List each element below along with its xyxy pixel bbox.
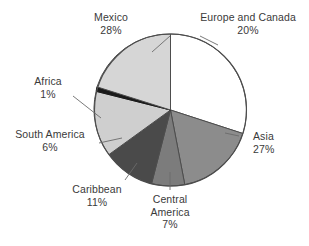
- slice-label-caribbean-name: Caribbean: [72, 183, 121, 195]
- slice-label-mexico-name: Mexico: [94, 11, 128, 23]
- slice-label-central-america-name: Central: [153, 193, 188, 205]
- slice-label-central-america: Central America 7%: [137, 193, 203, 231]
- slice-label-asia: Asia 27%: [253, 130, 303, 155]
- slice-label-africa-name: Africa: [34, 75, 61, 87]
- slice-label-caribbean: Caribbean 11%: [60, 183, 134, 208]
- slice-label-europe-and-canada-pct: 20%: [192, 24, 304, 37]
- slice-label-asia-name: Asia: [253, 130, 274, 142]
- slice-label-south-america: South America 6%: [2, 128, 98, 153]
- slice-label-asia-pct: 27%: [253, 143, 303, 156]
- slice-label-mexico-pct: 28%: [75, 24, 147, 37]
- pie-chart: Mexico 28% Europe and Canada 20% Africa …: [0, 0, 309, 246]
- slice-label-south-america-pct: 6%: [2, 141, 98, 154]
- slice-label-south-america-name: South America: [15, 128, 85, 140]
- slice-label-mexico: Mexico 28%: [75, 11, 147, 36]
- slice-label-africa-pct: 1%: [21, 88, 75, 101]
- slice-label-europe-and-canada: Europe and Canada 20%: [192, 11, 304, 36]
- slice-label-caribbean-pct: 11%: [60, 196, 134, 209]
- slice-label-europe-and-canada-name: Europe and Canada: [200, 11, 296, 23]
- slice-label-africa: Africa 1%: [21, 75, 75, 100]
- slice-label-central-america-name2: America: [137, 206, 203, 219]
- slice-label-central-america-pct: 7%: [137, 218, 203, 231]
